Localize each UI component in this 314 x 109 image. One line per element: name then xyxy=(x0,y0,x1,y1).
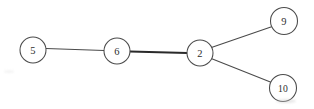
edge-2-9 xyxy=(211,27,271,48)
node-9[interactable]: 9 xyxy=(271,8,298,35)
node-5-label: 5 xyxy=(30,45,35,56)
graph-canvas: 5 6 2 9 10 xyxy=(0,0,314,109)
node-9-label: 9 xyxy=(281,16,286,27)
node-5[interactable]: 5 xyxy=(20,37,46,63)
node-group: 5 6 2 9 10 xyxy=(20,8,298,102)
node-10-label: 10 xyxy=(278,83,288,94)
node-10[interactable]: 10 xyxy=(270,75,297,102)
graph-diagram: 5 6 2 9 10 xyxy=(0,0,314,109)
edge-6-2 xyxy=(130,51,187,53)
edge-2-10 xyxy=(211,59,271,83)
edge-group xyxy=(46,27,272,82)
node-2[interactable]: 2 xyxy=(187,40,213,66)
node-6-label: 6 xyxy=(114,46,119,57)
node-2-label: 2 xyxy=(197,48,202,59)
node-6[interactable]: 6 xyxy=(104,38,130,64)
edge-5-6 xyxy=(46,49,104,51)
